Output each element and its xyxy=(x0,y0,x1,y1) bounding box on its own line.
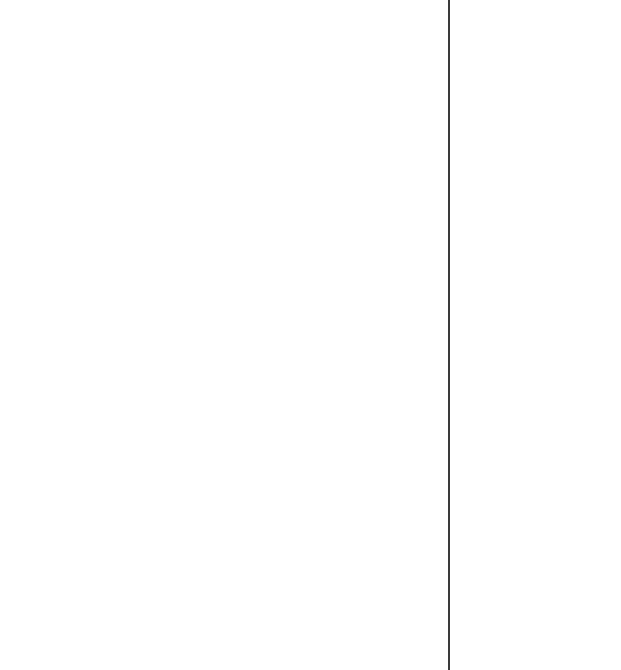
left-pane xyxy=(0,0,448,670)
right-pane xyxy=(450,0,621,670)
